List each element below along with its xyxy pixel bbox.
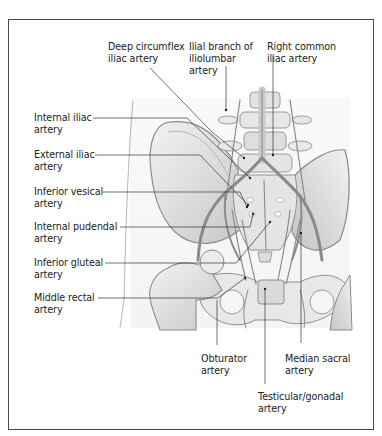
left-femoral-head [200, 250, 224, 274]
label-ilial-branch-iliolumbar-artery: Ilial branch of iliolumbar artery [189, 41, 253, 77]
label-internal-pudendal-artery: Internal pudendal artery [34, 221, 117, 245]
coccyx [258, 252, 272, 262]
label-inferior-vesical-artery: Inferior vesical artery [34, 186, 103, 210]
label-internal-iliac-artery: Internal iliac artery [34, 112, 92, 136]
right-obturator-foramen [310, 290, 334, 314]
label-deep-circumflex-iliac-artery: Deep circumflex iliac artery [108, 41, 185, 65]
label-external-iliac-artery: External iliac artery [34, 149, 95, 173]
label-obturator-artery: Obturator artery [201, 353, 247, 377]
label-middle-rectal-artery: Middle rectal artery [34, 292, 95, 316]
label-testicular-gonadal-artery: Testicular/gonadal artery [258, 391, 343, 415]
label-right-common-iliac-artery: Right common iliac artery [267, 41, 336, 65]
label-median-sacral-artery: Median sacral artery [285, 353, 350, 377]
label-inferior-gluteal-artery: Inferior gluteal artery [34, 257, 103, 281]
